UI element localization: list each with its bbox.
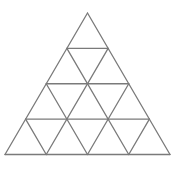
diagonal-line-left [129,119,150,154]
diagonal-line-left [46,48,108,154]
diagonal-line-right [26,119,47,154]
grid-lines [5,13,170,155]
triangle-grid-diagram [0,0,176,170]
diagonal-line-right [67,48,129,154]
